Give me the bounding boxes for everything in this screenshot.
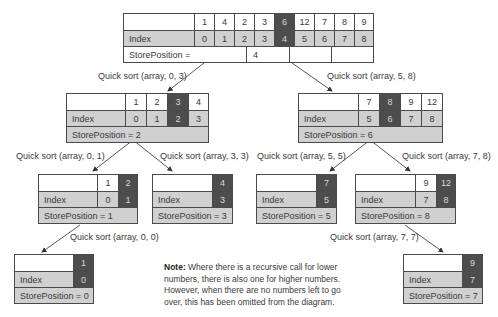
pivot-index-cell: 4 xyxy=(274,31,294,46)
value-cell: 8 xyxy=(334,14,354,30)
index-cell: 0 xyxy=(97,192,118,207)
index-label: Index xyxy=(124,31,194,46)
index-cell: 8 xyxy=(354,31,373,46)
index-cell: 5 xyxy=(358,111,379,126)
store-position-row: StorePosition = 4 xyxy=(124,46,373,62)
value-cell: 3 xyxy=(254,14,274,30)
empty-cell xyxy=(331,47,373,62)
node-5-8-box: 7 8 9 12 Index 5 6 7 8 StorePosition = 6 xyxy=(298,93,443,143)
store-position-label: StorePosition = 7 xyxy=(404,288,482,303)
index-label: Index xyxy=(257,192,316,207)
index-cell: 0 xyxy=(194,31,214,46)
index-label: Index xyxy=(404,272,462,287)
value-cell: 7 xyxy=(358,94,379,110)
pivot-value-cell: 4 xyxy=(212,175,232,191)
pivot-value-cell: 9 xyxy=(462,255,482,271)
pivot-index-cell: 5 xyxy=(316,192,336,207)
index-label: Index xyxy=(39,192,97,207)
values-row-label xyxy=(257,175,316,191)
index-label: Index xyxy=(67,111,125,126)
node-7-8-box: 9 12 Index 7 8 StorePosition = 8 xyxy=(355,174,456,224)
call-label-0-0: Quick sort (array, 0, 0) xyxy=(70,232,159,242)
node-0-0-box: 1 Index 0 StorePosition = 0 xyxy=(14,254,94,304)
call-label-0-1: Quick sort (array, 0, 1) xyxy=(16,151,105,161)
value-cell: 2 xyxy=(234,14,254,30)
store-position-label: StorePosition = 8 xyxy=(356,208,455,223)
node-5-5-box: 7 Index 5 StorePosition = 5 xyxy=(256,174,337,224)
call-label-5-5: Quick sort (array, 5, 5) xyxy=(257,151,346,161)
index-cell: 1 xyxy=(146,111,167,126)
values-row-label xyxy=(124,14,194,30)
value-cell: 1 xyxy=(194,14,214,30)
index-label: Index xyxy=(356,192,415,207)
pivot-value-cell: 8 xyxy=(379,94,400,110)
index-cell: 7 xyxy=(334,31,354,46)
pivot-index-cell: 7 xyxy=(462,272,482,287)
values-row-label xyxy=(153,175,212,191)
value-cell: 1 xyxy=(97,175,118,191)
root-array-box: 1 4 2 3 6 12 7 8 9 Index 0 1 2 3 4 5 6 7… xyxy=(123,13,374,63)
pivot-value-cell: 6 xyxy=(274,14,294,30)
values-row-label xyxy=(39,175,97,191)
index-label: Index xyxy=(299,111,358,126)
pivot-index-cell: 8 xyxy=(436,192,455,207)
pivot-index-cell: 3 xyxy=(212,192,232,207)
note-heading: Note: xyxy=(164,262,186,272)
value-cell: 7 xyxy=(314,14,334,30)
index-cell: 1 xyxy=(214,31,234,46)
values-row: 1 4 2 3 6 12 7 8 9 xyxy=(124,14,373,30)
store-position-label: StorePosition = 5 xyxy=(257,208,336,223)
index-cell: 3 xyxy=(188,111,208,126)
call-label-7-7: Quick sort (array, 7, 7) xyxy=(330,232,419,242)
index-row: Index 0 1 2 3 4 5 6 7 8 xyxy=(124,30,373,46)
index-cell: 7 xyxy=(400,111,421,126)
store-position-value: 4 xyxy=(246,47,289,62)
value-cell: 9 xyxy=(415,175,436,191)
store-position-label: StorePosition = 3 xyxy=(153,208,232,223)
store-position-label: StorePosition = 0 xyxy=(15,288,93,303)
index-cell: 2 xyxy=(234,31,254,46)
pivot-index-cell: 2 xyxy=(167,111,188,126)
store-position-label: StorePosition = 1 xyxy=(39,208,137,223)
values-row-label xyxy=(356,175,415,191)
value-cell: 4 xyxy=(214,14,234,30)
value-cell: 9 xyxy=(354,14,373,30)
call-label-3-3: Quick sort (array, 3, 3) xyxy=(160,151,249,161)
node-7-7-box: 9 Index 7 StorePosition = 7 xyxy=(403,254,483,304)
arrow-root-to-5-8 xyxy=(292,63,332,91)
values-row-label xyxy=(67,94,125,110)
index-cell: 7 xyxy=(415,192,436,207)
value-cell: 2 xyxy=(146,94,167,110)
values-row-label xyxy=(299,94,358,110)
pivot-index-cell: 0 xyxy=(73,272,93,287)
store-position-label: StorePosition = 6 xyxy=(299,127,442,142)
pivot-value-cell: 12 xyxy=(436,175,455,191)
pivot-value-cell: 2 xyxy=(118,175,137,191)
index-cell: 8 xyxy=(421,111,442,126)
node-0-3-box: 1 2 3 4 Index 0 1 2 3 StorePosition = 2 xyxy=(66,93,209,143)
pivot-index-cell: 6 xyxy=(379,111,400,126)
node-0-1-box: 1 2 Index 0 1 StorePosition = 1 xyxy=(38,174,138,224)
index-cell: 3 xyxy=(254,31,274,46)
index-label: Index xyxy=(15,272,73,287)
pivot-value-cell: 1 xyxy=(73,255,93,271)
index-cell: 6 xyxy=(314,31,334,46)
value-cell: 12 xyxy=(294,14,314,30)
store-position-label: StorePosition = xyxy=(124,47,246,62)
node-3-3-box: 4 Index 3 StorePosition = 3 xyxy=(152,174,233,224)
value-cell: 12 xyxy=(421,94,442,110)
empty-cell xyxy=(289,47,331,62)
values-row-label xyxy=(15,255,73,271)
store-position-label: StorePosition = 2 xyxy=(67,127,208,142)
value-cell: 1 xyxy=(125,94,146,110)
index-label: Index xyxy=(153,192,212,207)
diagram-note: Note: Where there is a recursive call fo… xyxy=(164,262,354,308)
values-row-label xyxy=(404,255,462,271)
call-label-5-8: Quick sort (array, 5, 8) xyxy=(327,71,416,81)
pivot-value-cell: 3 xyxy=(167,94,188,110)
call-label-7-8: Quick sort (array, 7, 8) xyxy=(402,151,491,161)
pivot-value-cell: 7 xyxy=(316,175,336,191)
value-cell: 4 xyxy=(188,94,208,110)
call-label-0-3: Quick sort (array, 0, 3) xyxy=(98,71,187,81)
index-cell: 0 xyxy=(125,111,146,126)
